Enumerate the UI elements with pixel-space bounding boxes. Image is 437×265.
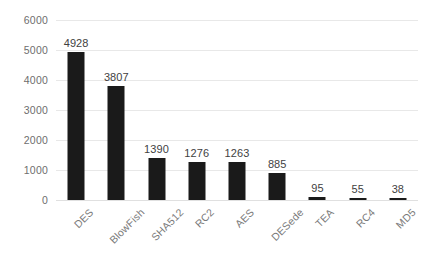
plot-area: 49283807139012761263885955538 (56, 20, 418, 200)
gridline-0 (56, 200, 418, 201)
y-tick-label: 3000 (24, 104, 48, 116)
y-tick-label: 4000 (24, 74, 48, 86)
y-tick-label: 6000 (24, 14, 48, 26)
bar-value-label: 95 (311, 182, 323, 194)
y-tick-label: 5000 (24, 44, 48, 56)
x-label-slot: DESede (257, 202, 297, 262)
bar-group: 3807 (96, 20, 136, 200)
x-tick-label: MD5 (393, 206, 418, 231)
x-tick-label: RC2 (192, 206, 216, 230)
bar[interactable] (269, 173, 286, 200)
bar-value-label: 38 (392, 183, 404, 195)
bar[interactable] (349, 198, 366, 201)
bar[interactable] (188, 162, 205, 200)
bar-value-label: 3807 (104, 71, 129, 83)
bar[interactable] (108, 86, 125, 200)
bar-value-label: 1276 (184, 147, 209, 159)
bar[interactable] (148, 158, 165, 200)
bar[interactable] (309, 197, 326, 200)
bar-chart: 0100020003000400050006000 49283807139012… (0, 0, 437, 265)
x-label-slot: RC4 (338, 202, 378, 262)
bar-group: 55 (338, 20, 378, 200)
bar-group: 95 (297, 20, 337, 200)
bar-group: 1263 (217, 20, 257, 200)
bar[interactable] (228, 162, 245, 200)
bar[interactable] (389, 198, 406, 201)
x-tick-label: AES (233, 206, 257, 230)
x-label-slot: DES (56, 202, 96, 262)
y-axis-tick-labels: 0100020003000400050006000 (0, 20, 48, 200)
x-label-slot: TEA (297, 202, 337, 262)
bar[interactable] (68, 52, 85, 200)
x-label-slot: AES (217, 202, 257, 262)
bar-value-label: 55 (351, 183, 363, 195)
bar-group: 885 (257, 20, 297, 200)
x-label-slot: RC2 (177, 202, 217, 262)
bar-group: 38 (378, 20, 418, 200)
y-tick-label: 2000 (24, 134, 48, 146)
y-tick-label: 0 (42, 194, 48, 206)
bar-group: 1276 (177, 20, 217, 200)
bar-value-label: 885 (268, 158, 287, 170)
x-label-slot: BlowFish (96, 202, 136, 262)
bar-group: 1390 (136, 20, 176, 200)
y-tick-label: 1000 (24, 164, 48, 176)
bar-value-label: 1263 (225, 147, 250, 159)
bar-value-label: 4928 (64, 37, 89, 49)
x-axis-category-labels: DESBlowFishSHA512RC2AESDESedeTEARC4MD5 (56, 202, 418, 262)
x-label-slot: SHA512 (136, 202, 176, 262)
x-tick-label: RC4 (353, 206, 377, 230)
bar-value-label: 1390 (144, 143, 169, 155)
x-tick-label: DES (72, 206, 96, 230)
x-label-slot: MD5 (378, 202, 418, 262)
bar-group: 4928 (56, 20, 96, 200)
x-tick-label: TEA (313, 206, 336, 229)
